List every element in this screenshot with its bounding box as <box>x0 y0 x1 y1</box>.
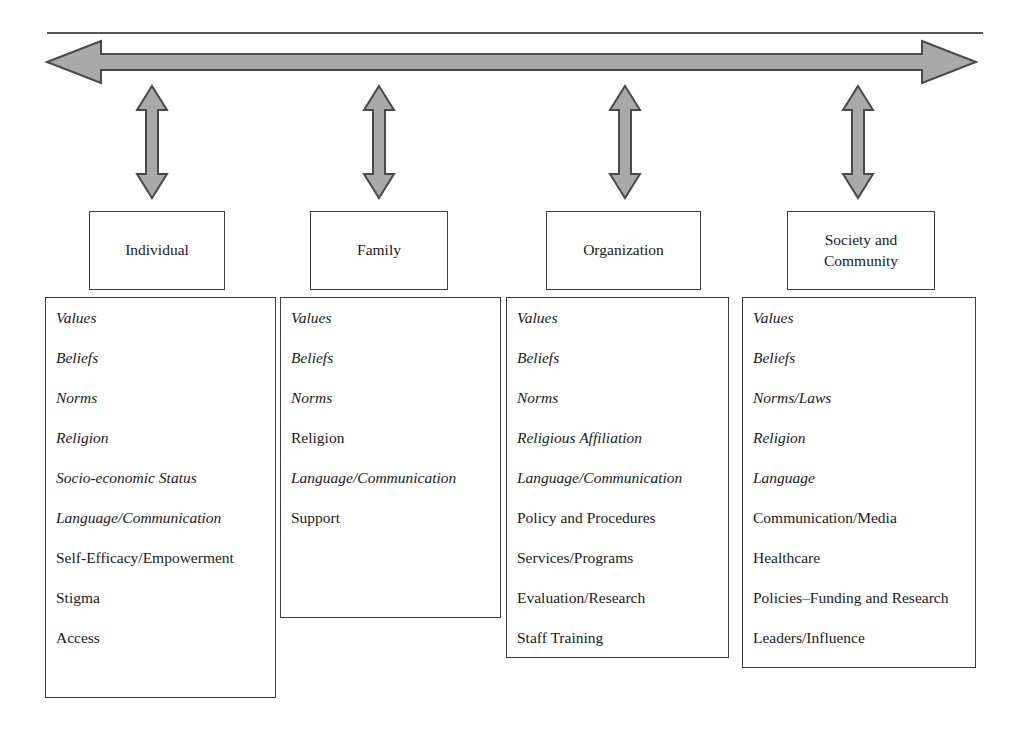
list-item: Norms <box>56 390 275 430</box>
list-item: Religion <box>753 430 975 470</box>
list-item: Communication/Media <box>753 510 975 550</box>
vertical-double-headed-arrow-organization <box>608 84 642 200</box>
header-label-organization: Organization <box>583 240 664 261</box>
list-item: Leaders/Influence <box>753 630 975 670</box>
list-item: Norms <box>291 390 500 430</box>
list-item: Evaluation/Research <box>517 590 728 630</box>
list-box-individual: ValuesBeliefsNormsReligionSocio-economic… <box>45 297 276 698</box>
list-item: Norms <box>517 390 728 430</box>
list-item: Values <box>56 310 275 350</box>
header-label-society-and-community: Society and Community <box>788 230 934 272</box>
figure-canvas: Individual Family Organization Society a… <box>0 0 1025 732</box>
list-item: Access <box>56 630 275 670</box>
list-item: Values <box>291 310 500 350</box>
vertical-double-headed-arrow-family <box>362 84 396 200</box>
list-item: Socio-economic Status <box>56 470 275 510</box>
header-label-family: Family <box>357 240 401 261</box>
vertical-double-headed-arrow-individual <box>135 84 169 200</box>
vertical-double-headed-arrow-society <box>841 84 875 200</box>
header-box-organization: Organization <box>546 211 701 290</box>
list-item: Staff Training <box>517 630 728 670</box>
list-box-society-and-community: ValuesBeliefsNorms/LawsReligionLanguageC… <box>742 297 976 668</box>
header-box-family: Family <box>310 211 448 290</box>
horizontal-double-headed-arrow <box>44 38 979 86</box>
list-item: Beliefs <box>56 350 275 390</box>
list-box-family: ValuesBeliefsNormsReligionLanguage/Commu… <box>280 297 501 618</box>
list-item: Religion <box>56 430 275 470</box>
list-item: Beliefs <box>753 350 975 390</box>
list-item: Language/Communication <box>56 510 275 550</box>
list-item: Healthcare <box>753 550 975 590</box>
list-item: Services/Programs <box>517 550 728 590</box>
list-item: Self-Efficacy/Empowerment <box>56 550 275 590</box>
list-item: Values <box>753 310 975 350</box>
list-item: Religion <box>291 430 500 470</box>
header-box-individual: Individual <box>89 211 225 290</box>
list-item: Policies–Funding and Research <box>753 590 975 630</box>
list-item: Language/Communication <box>291 470 500 510</box>
list-item: Stigma <box>56 590 275 630</box>
list-item: Beliefs <box>517 350 728 390</box>
top-horizontal-rule <box>47 32 983 34</box>
list-item: Values <box>517 310 728 350</box>
header-label-individual: Individual <box>125 240 189 261</box>
list-item: Religious Affiliation <box>517 430 728 470</box>
list-item: Language <box>753 470 975 510</box>
list-item: Language/Communication <box>517 470 728 510</box>
list-item: Support <box>291 510 500 550</box>
list-item: Norms/Laws <box>753 390 975 430</box>
list-box-organization: ValuesBeliefsNormsReligious AffiliationL… <box>506 297 729 658</box>
list-item: Beliefs <box>291 350 500 390</box>
list-item: Policy and Procedures <box>517 510 728 550</box>
header-box-society-and-community: Society and Community <box>787 211 935 290</box>
